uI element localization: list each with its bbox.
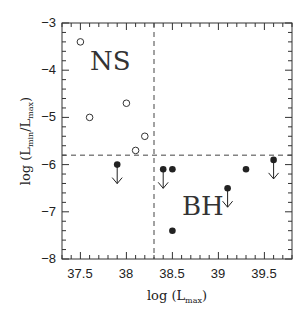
y-axis-label: log (Lmin/Lmax) [18, 97, 35, 185]
y-tick-label: −7 [41, 204, 56, 219]
y-axis-label-sub2: max [26, 101, 35, 118]
y-tick-label: −4 [41, 62, 56, 77]
ns-point [86, 114, 93, 121]
x-axis-label-main: log (L [147, 288, 186, 303]
y-tick-label: −3 [41, 15, 56, 30]
ns-region-label: NS [90, 46, 131, 76]
y-axis-label-mid: /L [18, 118, 33, 131]
scatter-chart: 37.5 38 38.5 39 39.5 −3 −4 −5 −6 −7 −8 l… [0, 0, 306, 312]
x-tick-label: 39.5 [251, 266, 276, 281]
x-axis-label: log (Lmax) [147, 288, 207, 305]
y-axis-label-main: log (L [18, 147, 33, 186]
bh-point [243, 166, 250, 173]
y-axis-label-sub1: min [26, 132, 35, 147]
y-axis-label-close: ) [18, 97, 33, 102]
x-tick-label: 38.5 [159, 266, 184, 281]
bh-point [169, 227, 176, 234]
ns-point [77, 39, 84, 46]
ns-point [142, 133, 149, 140]
x-axis-label-close: ) [202, 288, 207, 303]
ns-point [132, 147, 139, 154]
x-tick-label: 38 [119, 266, 133, 281]
bh-region-label: BH [182, 191, 224, 221]
y-tick-label: −6 [41, 157, 56, 172]
x-tick-label: 39 [211, 266, 225, 281]
bh-point [169, 166, 176, 173]
ns-point [123, 100, 130, 107]
y-tick-label: −5 [41, 109, 56, 124]
tick-labels: 37.5 38 38.5 39 39.5 −3 −4 −5 −6 −7 −8 [41, 15, 276, 281]
x-axis-label-sub: max [185, 296, 202, 305]
y-tick-label: −8 [41, 251, 56, 266]
x-tick-label: 37.5 [67, 266, 92, 281]
